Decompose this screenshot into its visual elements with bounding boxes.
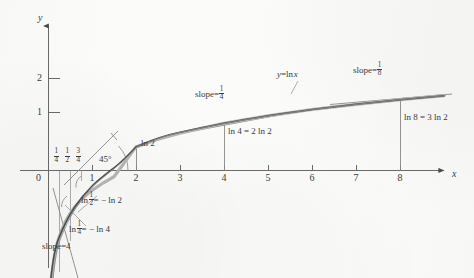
- fraction-one-quarter: 1 4: [54, 148, 59, 164]
- x-axis-label: x: [452, 169, 456, 179]
- curve-label: y=ln x: [277, 70, 298, 79]
- y-axis-ticks: [49, 79, 61, 113]
- ln2-label: ln 2: [141, 139, 155, 148]
- ln-one-half-label: ln 1 2 = − ln 2: [81, 192, 122, 208]
- x-tick-label-three-quarters: 3 4: [76, 146, 81, 164]
- fraction-slope-one-quarter: 1 4: [219, 86, 224, 102]
- slope-word-four: slope: [42, 241, 61, 251]
- leader-curve-label: [291, 81, 298, 94]
- ln4-label: ln 4 = 2 ln 2: [228, 127, 272, 136]
- ln-curve: [51, 96, 444, 278]
- slope-four-label: slope=4: [42, 242, 71, 251]
- x-tick-label-4: 4: [222, 173, 227, 183]
- curve-label-x: x: [294, 69, 298, 79]
- x-tick-label-3: 3: [178, 173, 183, 183]
- ln8-label: ln 8 = 3 ln 2: [404, 113, 448, 122]
- ln-one-quarter-label: ln 1 4 = − ln 4: [69, 221, 110, 237]
- curve-label-ln: ln: [286, 69, 293, 79]
- x-tick-label-2: 2: [134, 173, 139, 183]
- slope-eighth-label: slope= 1 8: [353, 62, 382, 78]
- slope-word-quarter: slope: [195, 89, 214, 99]
- y-tick-label-1: 1: [37, 107, 42, 117]
- ln-half-tail: = − ln 2: [94, 195, 122, 205]
- x-tick-label-5: 5: [266, 173, 271, 183]
- origin-label: 0: [36, 173, 41, 183]
- angle-arc-three-quarter: [76, 176, 82, 188]
- x-tick-label-7: 7: [354, 173, 359, 183]
- ln-quarter-tail: = − ln 4: [82, 224, 110, 234]
- slope-word-eighth: slope: [353, 65, 372, 75]
- x-tick-label-6: 6: [310, 173, 315, 183]
- fraction-one-half: 1 2: [65, 148, 70, 164]
- ln-curve-shadow: [51, 96, 444, 278]
- ln-curve-second-stroke: [53, 96, 445, 278]
- angle-arc-slope-four: [62, 196, 68, 207]
- x-tick-label-one-half: 1 2: [65, 146, 70, 164]
- y-axis-label: y: [38, 13, 42, 23]
- y-tick-label-2: 2: [37, 73, 42, 83]
- slope-four-value: 4: [66, 241, 71, 251]
- x-axis-ticks: [93, 165, 401, 171]
- x-tick-label-1: 1: [90, 173, 95, 183]
- x-tick-label-8: 8: [398, 173, 403, 183]
- fraction-slope-one-eighth: 1 8: [377, 62, 382, 78]
- fraction-three-quarters: 3 4: [76, 148, 81, 164]
- angle-45-label: 45°: [99, 155, 112, 164]
- slope-quarter-label: slope= 1 4: [195, 86, 224, 102]
- x-tick-label-one-quarter: 1 4: [54, 146, 59, 164]
- ln-half-lead: ln: [81, 195, 88, 205]
- ln-quarter-lead: ln: [69, 224, 76, 234]
